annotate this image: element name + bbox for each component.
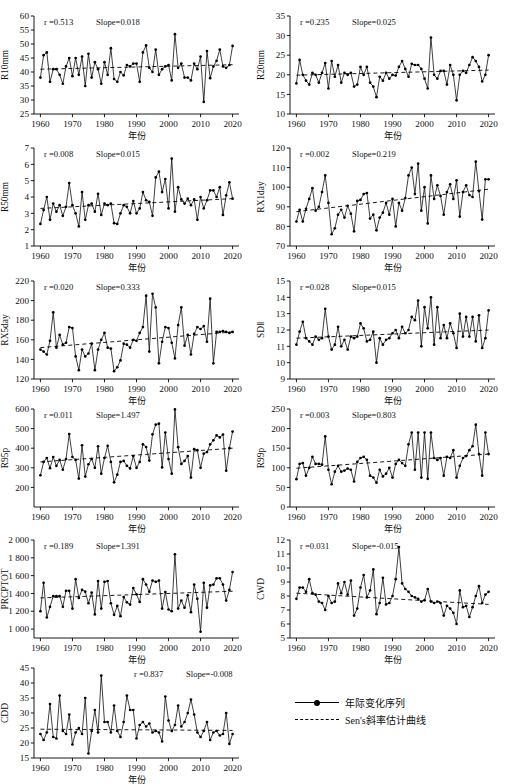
svg-text:2020: 2020	[223, 512, 242, 522]
svg-text:50: 50	[20, 39, 30, 49]
svg-text:2000: 2000	[415, 512, 434, 522]
svg-text:9: 9	[280, 577, 285, 587]
chart-panel-sdii: 9101112131415196019701980199020002010202…	[250, 271, 505, 405]
y-axis-label-sdii: SDⅡ	[256, 322, 266, 338]
legend-item-series: 年际变化序列	[295, 694, 426, 711]
svg-text:35: 35	[276, 11, 286, 21]
svg-text:40: 40	[20, 678, 30, 688]
svg-text:1980: 1980	[351, 251, 370, 261]
svg-text:2010: 2010	[191, 119, 210, 129]
svg-text:3: 3	[24, 209, 29, 219]
chart-panel-cwd: 567891011121960197019801990200020102020r…	[250, 530, 505, 664]
svg-text:1980: 1980	[95, 251, 114, 261]
svg-text:70: 70	[276, 241, 286, 251]
svg-text:100: 100	[271, 182, 285, 192]
stat-r-r20mm: r =0.235	[300, 17, 329, 27]
y-axis-label-rx1day: RX1day	[256, 181, 266, 213]
svg-text:2000: 2000	[415, 119, 434, 129]
svg-text:1960: 1960	[31, 119, 50, 129]
sen-slope-line-icon	[295, 719, 339, 721]
stat-r-r10mm: r =0.513	[44, 17, 73, 27]
svg-text:15: 15	[20, 753, 30, 763]
svg-text:1 400: 1 400	[8, 589, 29, 599]
svg-text:2010: 2010	[191, 763, 210, 773]
svg-text:1960: 1960	[287, 251, 306, 261]
svg-text:2020: 2020	[479, 512, 498, 522]
svg-text:2020: 2020	[479, 643, 498, 653]
svg-text:1980: 1980	[95, 384, 114, 394]
svg-text:2010: 2010	[191, 251, 210, 261]
svg-text:300: 300	[15, 463, 29, 473]
stat-slope-r50mm: Slope=0.015	[96, 149, 140, 159]
svg-text:35: 35	[20, 81, 30, 91]
svg-text:1960: 1960	[31, 763, 50, 773]
svg-text:5: 5	[24, 176, 29, 186]
legend-label-series: 年际变化序列	[345, 695, 405, 710]
svg-text:200: 200	[15, 483, 29, 493]
svg-text:80: 80	[276, 222, 286, 232]
svg-text:40: 40	[20, 67, 30, 77]
svg-text:1960: 1960	[31, 251, 50, 261]
svg-text:5: 5	[280, 633, 285, 643]
stat-slope-r99p: Slope=0.803	[352, 410, 396, 420]
svg-text:30: 30	[20, 708, 30, 718]
stat-r-cwd: r =0.031	[300, 541, 329, 551]
svg-text:1970: 1970	[319, 251, 338, 261]
svg-text:2 000: 2 000	[8, 535, 29, 545]
svg-text:180: 180	[15, 315, 29, 325]
y-axis-label-r10mm: R10mm	[0, 49, 10, 80]
stat-r-r95p: r =0.011	[44, 410, 73, 420]
svg-text:1990: 1990	[127, 643, 146, 653]
svg-text:2000: 2000	[415, 643, 434, 653]
svg-text:13: 13	[276, 309, 286, 319]
stat-slope-r10mm: Slope=0.018	[96, 17, 140, 27]
legend-item-sen: Sen's斜率估计曲线	[295, 711, 426, 728]
svg-text:1980: 1980	[95, 512, 114, 522]
svg-text:2000: 2000	[415, 251, 434, 261]
svg-text:60: 60	[20, 11, 30, 21]
svg-text:1 800: 1 800	[8, 553, 29, 563]
svg-text:55: 55	[20, 25, 30, 35]
x-axis-label-cdd: 年份	[128, 774, 146, 784]
figure-legend: 年际变化序列 Sen's斜率估计曲线	[295, 694, 426, 728]
chart-panel-rx5day: 1201401601802002201960197019801990200020…	[0, 271, 249, 405]
y-axis-label-cwd: CWD	[256, 578, 266, 600]
svg-text:2010: 2010	[191, 384, 210, 394]
svg-text:2010: 2010	[191, 512, 210, 522]
svg-text:2000: 2000	[159, 119, 178, 129]
svg-text:2010: 2010	[447, 512, 466, 522]
svg-text:11: 11	[276, 342, 285, 352]
svg-text:2000: 2000	[159, 251, 178, 261]
svg-text:25: 25	[20, 723, 30, 733]
svg-text:25: 25	[20, 109, 30, 119]
svg-text:150: 150	[271, 443, 285, 453]
svg-text:120: 120	[271, 143, 285, 153]
svg-text:6: 6	[24, 160, 29, 170]
svg-text:2000: 2000	[159, 643, 178, 653]
legend-label-sen: Sen's斜率估计曲线	[345, 712, 426, 727]
svg-text:9: 9	[280, 374, 285, 384]
svg-text:2000: 2000	[159, 384, 178, 394]
svg-text:220: 220	[15, 276, 29, 286]
svg-text:1970: 1970	[319, 512, 338, 522]
svg-text:100: 100	[271, 463, 285, 473]
svg-text:1990: 1990	[127, 251, 146, 261]
svg-text:15: 15	[276, 276, 286, 286]
svg-text:1: 1	[24, 241, 29, 251]
svg-text:2020: 2020	[223, 763, 242, 773]
svg-text:1970: 1970	[63, 763, 82, 773]
svg-text:45: 45	[20, 663, 30, 673]
svg-text:1990: 1990	[127, 763, 146, 773]
svg-text:2: 2	[24, 225, 29, 235]
svg-text:2020: 2020	[223, 251, 242, 261]
stat-r-rx1day: r =0.002	[300, 149, 329, 159]
x-axis-label-cwd: 年份	[384, 654, 402, 665]
svg-text:1960: 1960	[287, 512, 306, 522]
series-line-icon	[295, 698, 339, 707]
svg-text:2000: 2000	[415, 384, 434, 394]
chart-panel-r99p: 0501001502002501960197019801990200020102…	[250, 399, 505, 533]
svg-text:1980: 1980	[351, 384, 370, 394]
svg-text:50: 50	[276, 483, 286, 493]
stat-r-cdd: r =0.837	[134, 669, 164, 679]
svg-text:1990: 1990	[383, 643, 402, 653]
